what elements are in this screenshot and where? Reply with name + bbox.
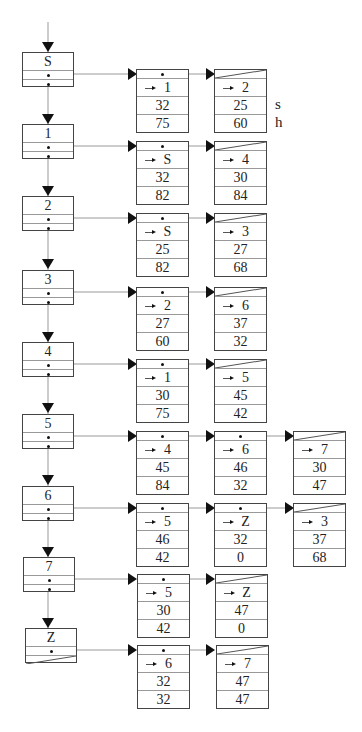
pointer-dot-icon: [47, 373, 50, 376]
pointer-dot-icon: [161, 217, 164, 220]
null-pointer: [294, 504, 345, 513]
null-slash-icon: [217, 646, 268, 654]
pointer-dot-icon: [161, 435, 164, 438]
next-edge-pointer: [137, 288, 188, 297]
edge-target: 4: [137, 441, 188, 459]
next-edge-pointer: [137, 360, 188, 369]
edge-h-value: 82: [137, 187, 188, 204]
side-label-h: h: [275, 114, 283, 131]
edge-h-value: 32: [215, 477, 266, 494]
vertex-node-4: 4: [22, 342, 74, 377]
edge-s-value: 25: [215, 97, 266, 115]
null-slash-icon: [294, 504, 345, 512]
null-slash-icon: [215, 70, 266, 78]
next-edge-pointer: [137, 142, 188, 151]
edge-h-value: 32: [138, 691, 189, 708]
next-vertex-pointer: [23, 152, 73, 160]
edge-node: 7 30 47: [293, 431, 346, 495]
null-pointer: [215, 288, 266, 297]
edge-node: 4 45 84: [136, 431, 189, 495]
edge-h-value: 47: [294, 477, 345, 494]
edge-s-value: 32: [215, 531, 266, 549]
edge-target: 4: [215, 151, 266, 169]
vertex-node-s: S: [22, 52, 74, 87]
next-vertex-pointer: [23, 298, 73, 306]
pointer-dot-icon: [47, 218, 50, 221]
null-pointer: [217, 646, 268, 655]
edge-node: 6 37 32: [214, 287, 267, 351]
edge-target: 5: [138, 584, 189, 602]
adjacency-pointer: [23, 289, 73, 298]
edge-target: S: [137, 151, 188, 169]
pointer-dot-icon: [239, 435, 242, 438]
vertex-node-z: Z: [25, 628, 77, 663]
edge-h-value: 84: [137, 477, 188, 494]
adjacency-pointer: [23, 143, 73, 152]
edge-node: 2 25 60: [214, 69, 267, 133]
pointer-dot-icon: [47, 292, 50, 295]
vertex-label: 7: [24, 558, 74, 576]
edge-s-value: 32: [137, 169, 188, 187]
edge-s-value: 30: [294, 459, 345, 477]
edge-target: 6: [215, 297, 266, 315]
pointer-dot-icon: [47, 364, 50, 367]
edge-node: S 32 82: [136, 141, 189, 205]
edge-h-value: 42: [137, 549, 188, 566]
vertex-node-5: 5: [22, 414, 74, 449]
edge-s-value: 25: [137, 241, 188, 259]
edge-s-value: 27: [215, 241, 266, 259]
edge-h-value: 47: [217, 691, 268, 708]
edge-node: 5 45 42: [214, 359, 267, 423]
edge-h-value: 60: [137, 333, 188, 350]
null-pointer: [215, 142, 266, 151]
edge-target: 6: [215, 441, 266, 459]
adjacency-pointer: [23, 505, 73, 514]
null-slash-icon: [216, 575, 267, 583]
vertex-label: 1: [23, 125, 73, 143]
next-edge-pointer: [215, 504, 266, 513]
next-edge-pointer: [137, 214, 188, 223]
edge-s-value: 30: [137, 387, 188, 405]
adjacency-pointer: [23, 71, 73, 80]
next-vertex-pointer: [23, 442, 73, 450]
edge-target: 3: [215, 223, 266, 241]
side-label-s: s: [275, 96, 281, 113]
edge-node: 3 37 68: [293, 503, 346, 567]
edge-s-value: 47: [216, 602, 267, 620]
edge-node: 4 30 84: [214, 141, 267, 205]
next-vertex-pointer: [23, 80, 73, 88]
edge-s-value: 45: [137, 459, 188, 477]
null-pointer: [216, 575, 267, 584]
adjacency-pointer: [24, 576, 74, 585]
next-vertex-pointer: [23, 514, 73, 522]
edge-s-value: 32: [138, 673, 189, 691]
edge-target: 1: [137, 369, 188, 387]
null-slash-icon: [215, 288, 266, 296]
vertex-label: 4: [23, 343, 73, 361]
adjacency-pointer: [23, 361, 73, 370]
edge-node: 6 32 32: [137, 645, 190, 709]
next-edge-pointer: [138, 575, 189, 584]
edge-target: 2: [215, 79, 266, 97]
null-pointer: [215, 214, 266, 223]
next-edge-pointer: [215, 432, 266, 441]
edge-target: 6: [138, 655, 189, 673]
edge-h-value: 75: [137, 115, 188, 132]
null-slash-icon: [215, 142, 266, 150]
next-edge-pointer: [138, 646, 189, 655]
pointer-dot-icon: [47, 517, 50, 520]
edge-h-value: 42: [215, 405, 266, 422]
pointer-dot-icon: [161, 363, 164, 366]
edge-s-value: 27: [137, 315, 188, 333]
pointer-dot-icon: [47, 508, 50, 511]
edge-s-value: 37: [294, 531, 345, 549]
vertex-label: 3: [23, 271, 73, 289]
vertex-node-7: 7: [23, 557, 75, 592]
pointer-dot-icon: [47, 74, 50, 77]
vertex-label: 2: [23, 197, 73, 215]
vertex-node-3: 3: [22, 270, 74, 305]
edge-node: 5 30 42: [137, 574, 190, 638]
edge-target: Z: [215, 513, 266, 531]
pointer-dot-icon: [47, 301, 50, 304]
edge-s-value: 30: [138, 602, 189, 620]
